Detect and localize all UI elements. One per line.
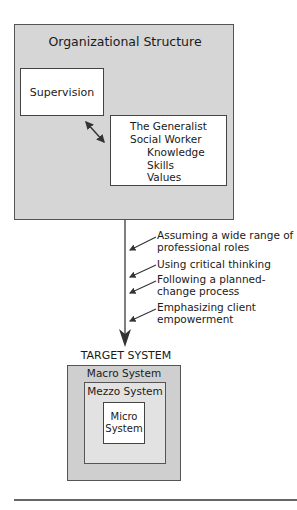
target-system-label: TARGET SYSTEM [26, 349, 226, 362]
macro-system-label: Macro System [67, 367, 181, 379]
pointer-arrow-icon [130, 237, 156, 250]
bidirectional-arrow-icon [86, 122, 104, 142]
role-item: Using critical thinking [157, 258, 271, 270]
role-item: Emphasizing client empowerment [157, 301, 256, 325]
pointer-arrow-icon [130, 265, 156, 277]
pointer-arrow-icon [130, 309, 156, 321]
micro-system-label-line2: System [105, 423, 142, 435]
role-item: Assuming a wide range of professional ro… [157, 229, 293, 253]
bottom-divider [14, 499, 297, 501]
micro-system-box: Micro System [103, 402, 145, 444]
micro-system-label-line1: Micro [111, 411, 138, 423]
pointer-arrow-icon [130, 281, 156, 293]
mezzo-system-label: Mezzo System [84, 385, 166, 397]
role-item: Following a planned- change process [157, 273, 266, 297]
